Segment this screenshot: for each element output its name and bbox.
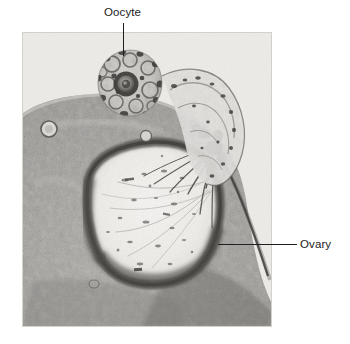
micrograph-plate — [22, 32, 272, 327]
figure-container: Oocyte Ovary — [0, 0, 350, 344]
leader-line-oocyte — [123, 23, 124, 56]
label-oocyte: Oocyte — [104, 6, 141, 19]
leader-line-ovary — [218, 244, 297, 245]
label-ovary: Ovary — [300, 238, 331, 251]
